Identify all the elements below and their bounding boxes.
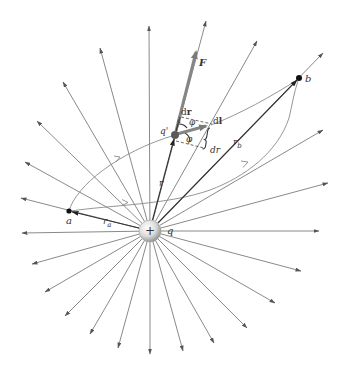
label-charge-q: q — [167, 225, 173, 236]
point-a-dot — [66, 208, 71, 213]
field-line — [161, 234, 301, 271]
field-line — [25, 162, 140, 226]
test-charge-q-prime-dot — [171, 131, 179, 139]
field-line — [158, 239, 247, 328]
field-lines — [21, 21, 328, 354]
field-line — [22, 231, 139, 233]
label-ra: ra — [103, 216, 112, 229]
field-line — [156, 241, 215, 343]
point-b-dot — [296, 75, 302, 81]
field-line — [149, 26, 150, 220]
label-q-prime: q' — [160, 126, 168, 136]
field-line — [90, 241, 145, 335]
label-dr-vector: dr — [181, 107, 192, 117]
phi-arc-top — [179, 124, 187, 128]
path-direction-arrow-icon — [122, 200, 128, 206]
field-line — [153, 242, 183, 351]
field-line — [65, 239, 142, 316]
field-line — [161, 183, 328, 228]
upper-path-q-prime-to-b — [211, 80, 297, 125]
field-line — [37, 121, 142, 223]
field-line — [118, 242, 147, 348]
field-line — [100, 48, 147, 220]
rb-vector — [158, 80, 297, 223]
label-dr-scalar: dr — [210, 145, 221, 155]
dashed-construction-top — [181, 117, 212, 124]
label-point-b: b — [305, 73, 311, 84]
label-phi-top: φ — [189, 117, 196, 127]
label-phi-bottom: φ — [186, 134, 193, 144]
charge-sign: + — [145, 224, 155, 238]
field-line — [32, 234, 139, 264]
label-F: F — [198, 57, 207, 68]
field-line — [155, 41, 257, 221]
field-line — [160, 237, 276, 304]
displacement-vector-dl — [177, 126, 206, 134]
label-dl: dl — [213, 116, 223, 126]
label-rb: rb — [233, 137, 242, 150]
label-r: r — [159, 178, 164, 188]
path-direction-arrow-icon — [241, 161, 248, 168]
label-point-a: a — [66, 215, 72, 226]
electric-field-work-diagram: + F dr φ φ dl dr q' r rb ra a b q — [0, 0, 353, 372]
field-line — [45, 237, 141, 293]
